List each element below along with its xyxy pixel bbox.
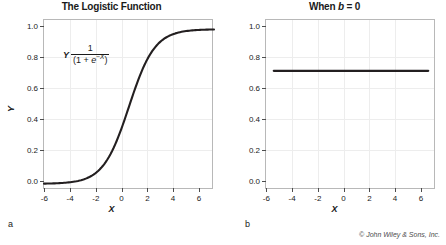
y-axis-tick-label: 0.2 [249, 146, 260, 155]
y-axis-tick-label: 0.6 [249, 84, 260, 93]
y-axis-tick-label: 0.4 [249, 115, 260, 124]
x-axis-tick-label: 0 [341, 194, 345, 203]
x-axis-tick-label: -6 [263, 194, 270, 203]
x-axis-tick-label: -6 [41, 194, 48, 203]
y-axis-tick-label: 1.0 [27, 22, 38, 31]
x-axis-tick-label: -2 [314, 194, 321, 203]
y-axis-tick-label: 0.2 [27, 146, 38, 155]
panel-b: When b = 0 0.0 0.2 0.4 0.6 0.8 1.0 -6 [223, 0, 446, 222]
y-axis-tick-label: 0.8 [249, 53, 260, 62]
panel-b-title-prefix: When [309, 1, 338, 12]
equation-fraction: 1 (1 + e−X) [71, 44, 109, 66]
y-axis-tick-label: 1.0 [249, 22, 260, 31]
panel-b-letter: b [245, 219, 250, 229]
panel-a-letter: a [8, 219, 13, 229]
panel-a: The Logistic Function 0.0 0.2 0.4 0.6 0.… [0, 0, 223, 222]
x-axis-tick-label: 4 [171, 194, 175, 203]
constant-line-curve [266, 20, 436, 190]
x-axis-tick-label: 6 [419, 194, 423, 203]
x-axis-tick-label: -2 [92, 194, 99, 203]
panel-a-x-axis-label: X [0, 204, 223, 214]
x-axis-tick-label: -4 [289, 194, 296, 203]
y-axis-tick-label: 0.6 [27, 84, 38, 93]
panel-a-equation: Y 1 (1 + e−X) [63, 44, 109, 66]
x-axis-tick-label: 2 [367, 194, 371, 203]
x-axis-tick-label: 2 [145, 194, 149, 203]
copyright-notice: © John Wiley & Sons, Inc. [359, 231, 440, 238]
x-axis-tick-label: -4 [67, 194, 74, 203]
denominator-close: ) [104, 55, 107, 65]
panel-b-x-axis-label: X [223, 204, 446, 214]
x-axis-tick-label: 0 [119, 194, 123, 203]
y-axis-tick-label: 0.0 [27, 176, 38, 185]
y-axis-tick-label: 0.0 [249, 176, 260, 185]
y-axis-tick-label: 0.4 [27, 115, 38, 124]
equation-numerator: 1 [84, 44, 97, 54]
panel-b-title-suffix: = 0 [344, 1, 360, 12]
x-axis-tick-label: 6 [197, 194, 201, 203]
panel-b-title: When b = 0 [223, 1, 446, 12]
panel-a-y-axis-label: Y [6, 106, 16, 112]
figure-logistic-function: The Logistic Function 0.0 0.2 0.4 0.6 0.… [0, 0, 446, 245]
y-axis-tick-label: 0.8 [27, 53, 38, 62]
x-axis-tick-label: 4 [393, 194, 397, 203]
equation-lead: Y [63, 50, 69, 60]
equation-denominator: (1 + e−X) [71, 55, 109, 65]
panel-a-title-text: The Logistic Function [62, 1, 162, 12]
denominator-open: (1 + [73, 55, 91, 65]
panel-b-plot-area: 0.0 0.2 0.4 0.6 0.8 1.0 -6 -4 -2 0 2 4 6 [265, 19, 435, 189]
panel-a-title: The Logistic Function [0, 1, 223, 12]
